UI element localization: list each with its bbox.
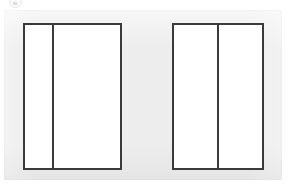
- circle-badge-icon: [9, 0, 22, 8]
- left-frame[interactable]: [23, 23, 122, 170]
- left-frame-pane-1[interactable]: [25, 25, 52, 168]
- right-frame[interactable]: [172, 23, 264, 170]
- right-frame-pane-1[interactable]: [174, 25, 217, 168]
- right-frame-pane-2[interactable]: [219, 25, 262, 168]
- diagram-canvas: [0, 0, 289, 191]
- left-frame-pane-2[interactable]: [54, 25, 120, 168]
